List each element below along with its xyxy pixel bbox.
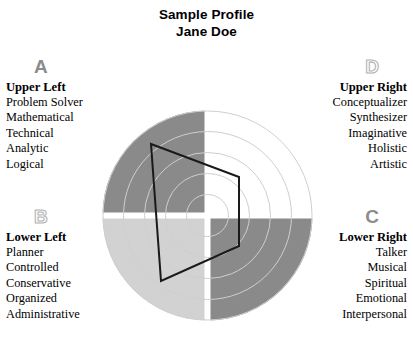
trait-item: Technical [6, 126, 138, 141]
quadrant-heading-upper-left: Upper Left [6, 79, 138, 95]
trait-item: Imaginative [275, 126, 407, 141]
quadrant-block-upper-left: A Upper Left Problem Solver Mathematical… [6, 56, 138, 172]
quadrant-block-lower-left: B Lower Left Planner Controlled Conserva… [6, 206, 146, 322]
trait-item: Problem Solver [6, 95, 138, 110]
trait-item: Planner [6, 245, 146, 260]
trait-list-upper-left: Problem Solver Mathematical Technical An… [6, 95, 138, 172]
trait-item: Administrative [6, 307, 146, 322]
quadrant-letter-a: A [34, 56, 138, 77]
quadrant-letter-b: B [34, 206, 146, 227]
trait-item: Logical [6, 157, 138, 172]
trait-item: Interpersonal [267, 307, 407, 322]
trait-item: Talker [267, 245, 407, 260]
trait-list-lower-left: Planner Controlled Conservative Organize… [6, 245, 146, 322]
trait-item: Mathematical [6, 110, 138, 125]
quadrant-heading-lower-left: Lower Left [6, 229, 146, 245]
page-title: Sample Profile Jane Doe [0, 6, 413, 40]
quadrant-block-upper-right: D Upper Right Conceptualizer Synthesizer… [275, 56, 407, 172]
quadrant-heading-upper-right: Upper Right [275, 79, 407, 95]
trait-item: Holistic [275, 141, 407, 156]
quadrant-letter-d: D [275, 56, 379, 77]
quadrant-heading-lower-right: Lower Right [267, 229, 407, 245]
trait-item: Conceptualizer [275, 95, 407, 110]
trait-item: Musical [267, 260, 407, 275]
trait-item: Analytic [6, 141, 138, 156]
trait-item: Synthesizer [275, 110, 407, 125]
trait-item: Controlled [6, 260, 146, 275]
quadrant-letter-c: C [267, 206, 379, 227]
trait-list-lower-right: Talker Musical Spiritual Emotional Inter… [267, 245, 407, 322]
trait-list-upper-right: Conceptualizer Synthesizer Imaginative H… [275, 95, 407, 172]
quadrant-block-lower-right: C Lower Right Talker Musical Spiritual E… [267, 206, 407, 322]
trait-item: Emotional [267, 291, 407, 306]
trait-item: Conservative [6, 276, 146, 291]
trait-item: Organized [6, 291, 146, 306]
trait-item: Artistic [275, 157, 407, 172]
profile-subject-name: Jane Doe [0, 23, 413, 40]
quadrant-divider-vertical [205, 110, 211, 321]
profile-title-line: Sample Profile [0, 6, 413, 23]
trait-item: Spiritual [267, 276, 407, 291]
